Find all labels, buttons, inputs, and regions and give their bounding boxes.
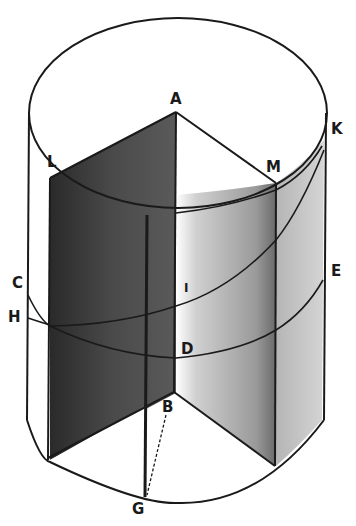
line-AM	[176, 112, 276, 183]
label-B: B	[162, 400, 173, 415]
label-M: M	[266, 160, 281, 175]
curve-H-to-E	[28, 318, 50, 325]
edge-M	[275, 183, 276, 466]
edge-L	[48, 178, 50, 460]
right-side	[324, 113, 326, 420]
label-I: I	[184, 282, 188, 294]
dark-face	[50, 112, 176, 460]
label-E: E	[331, 264, 341, 279]
label-D: D	[181, 342, 193, 357]
line-BG-dashed	[147, 415, 166, 495]
light-face	[176, 183, 276, 466]
label-C: C	[12, 276, 23, 291]
label-A: A	[170, 92, 182, 107]
label-G: G	[132, 502, 144, 517]
right-strip-face	[276, 140, 324, 466]
label-H: H	[8, 310, 21, 325]
label-K: K	[331, 122, 343, 137]
label-L: L	[47, 155, 57, 170]
left-side	[27, 113, 29, 420]
cylinder-figure	[0, 0, 356, 526]
